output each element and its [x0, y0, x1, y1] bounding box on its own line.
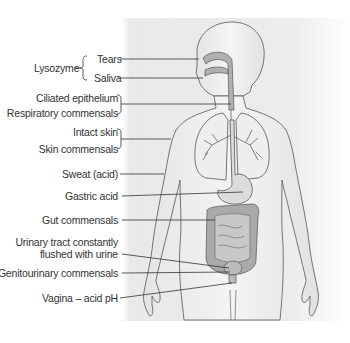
label-skin-commensals: Skin commensals: [39, 143, 118, 155]
small-intestine: [215, 214, 250, 263]
label-genitourinary-commensals: Genitourinary commensals: [0, 267, 118, 279]
label-urinary-tract-line1: Urinary tract constantly: [15, 236, 118, 248]
label-tears: Tears: [97, 53, 122, 65]
label-sweat: Sweat (acid): [62, 168, 118, 180]
label-saliva: Saliva: [94, 72, 121, 84]
label-intact-skin: Intact skin: [73, 126, 118, 138]
label-gastric-acid: Gastric acid: [65, 190, 118, 202]
label-gut-commensals: Gut commensals: [42, 214, 118, 226]
label-respiratory-commensals: Respiratory commensals: [7, 107, 118, 119]
label-urinary-tract-line2: flushed with urine: [40, 248, 118, 260]
label-lysozyme: Lysozyme: [34, 62, 79, 74]
label-ciliated-epithelium: Ciliated epithelium: [36, 92, 118, 104]
label-vagina-acid-ph: Vagina – acid pH: [42, 292, 118, 304]
